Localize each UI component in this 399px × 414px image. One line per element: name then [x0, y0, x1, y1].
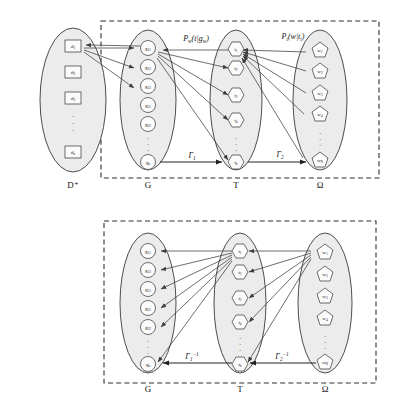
g-set-2-label: G [145, 384, 152, 394]
p-w-formula-label: Pw(t|gw) [182, 34, 209, 44]
g-set-ellipsis-3: . [147, 145, 149, 153]
bottom-panel: g11 g12 g13 g21 g22 . . . gn t1 t2 t3 t4… [104, 221, 376, 394]
d-set-ellipsis-3: . [72, 125, 74, 133]
t-set-2-ellipsis-3: . [239, 345, 241, 353]
p-t-formula-label: Pt(w|ti) [281, 32, 305, 42]
diagram-canvas: d1 d2 d3 . . . dn g11 g12 g13 g21 g22 . … [0, 0, 399, 414]
omega-set-2-label: Ω [322, 384, 329, 394]
t-set-2-label: T [237, 384, 243, 394]
omega-set-label: Ω [317, 180, 324, 190]
omega-set-ellipsis-3: . [319, 140, 321, 148]
top-panel: d1 d2 d3 . . . dn g11 g12 g13 g21 g22 . … [40, 21, 379, 190]
diagram-figure: d1 d2 d3 . . . dn g11 g12 g13 g21 g22 . … [0, 0, 399, 414]
gamma2-inv-label: Γ2−1 [274, 351, 289, 362]
g-set-label: G [145, 180, 152, 190]
gamma2-label: Γ2 [275, 150, 284, 160]
d-set-label: D⁺ [67, 180, 79, 190]
t-set-label: T [233, 180, 239, 190]
gamma1-label: Γ1 [187, 151, 196, 161]
g-set-2-ellipsis-3: . [147, 348, 149, 356]
omega-set-2-ellipsis-3: . [324, 343, 326, 351]
t-set-ellipsis-3: . [235, 145, 237, 153]
gamma1-inv-label: Γ1−1 [184, 351, 199, 362]
